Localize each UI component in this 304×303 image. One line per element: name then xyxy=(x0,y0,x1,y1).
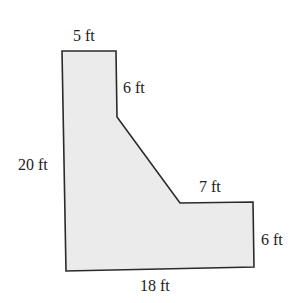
label-bottom: 18 ft xyxy=(140,278,170,294)
label-top: 5 ft xyxy=(73,28,95,44)
label-step-top: 7 ft xyxy=(199,179,221,195)
label-left: 20 ft xyxy=(18,157,48,173)
label-right: 6 ft xyxy=(261,232,283,248)
shaded-region xyxy=(62,51,254,271)
figure-canvas: 5 ft 6 ft 20 ft 7 ft 6 ft 18 ft xyxy=(0,0,304,303)
label-upper-right-vertical: 6 ft xyxy=(123,80,145,96)
polygon-figure xyxy=(0,0,304,303)
